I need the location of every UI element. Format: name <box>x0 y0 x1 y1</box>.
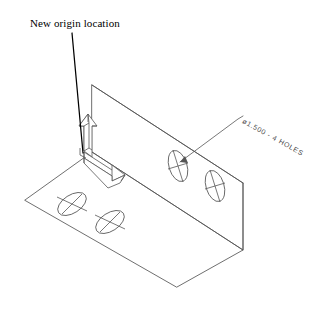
x-axis-arrow <box>84 152 125 188</box>
wall-plate-holes <box>165 148 229 204</box>
base-hole-left <box>54 188 91 221</box>
wall-hole-left <box>165 148 192 184</box>
base-plate-holes <box>54 188 129 239</box>
part-geometry <box>25 85 243 287</box>
hole-leader-polyline <box>180 116 243 162</box>
base-hole-right <box>92 206 129 239</box>
hole-callout-leader <box>180 116 243 163</box>
technical-drawing-canvas <box>0 0 326 313</box>
wall-hole-right <box>202 168 229 204</box>
origin-leader-line <box>72 33 83 153</box>
new-origin-location-label: New origin location <box>30 18 120 29</box>
origin-axis-indicator <box>79 114 125 188</box>
